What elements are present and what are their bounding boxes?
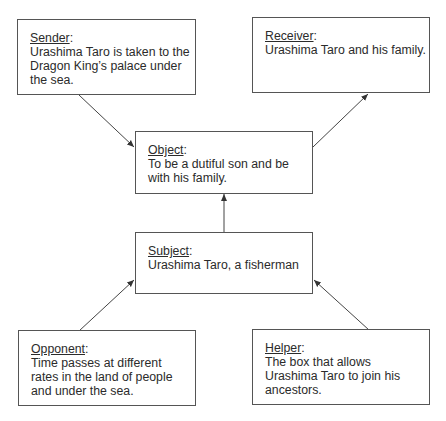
helper-text: The box that allows Urashima Taro to joi… <box>265 355 405 397</box>
arrow-opponent-to-subject <box>79 280 134 331</box>
subject-text: Urashima Taro, a fisherman <box>148 258 312 272</box>
object-label: Object <box>148 143 184 157</box>
opponent-text: Time passes at different rates in the la… <box>31 356 181 398</box>
receiver-box: Receiver: Urashima Taro and his family. <box>252 17 430 93</box>
opponent-label: Opponent <box>31 342 85 356</box>
subject-label: Subject <box>148 244 189 258</box>
helper-box: Helper: The box that allows Urashima Tar… <box>252 329 430 405</box>
arrow-sender-to-object <box>79 95 134 147</box>
object-text: To be a dutiful son and be with his fami… <box>148 157 298 185</box>
arrow-object-to-receiver <box>313 94 368 147</box>
sender-box: Sender: Urashima Taro is taken to the Dr… <box>17 19 196 95</box>
arrow-helper-to-subject <box>314 280 369 330</box>
sender-label: Sender <box>30 31 70 45</box>
object-box: Object: To be a dutiful son and be with … <box>135 131 313 194</box>
receiver-text: Urashima Taro and his family. <box>265 43 429 57</box>
receiver-label: Receiver <box>265 29 314 43</box>
helper-label: Helper <box>265 341 301 355</box>
sender-text: Urashima Taro is taken to the Dragon Kin… <box>30 45 190 87</box>
opponent-box: Opponent: Time passes at different rates… <box>18 330 196 406</box>
subject-box: Subject: Urashima Taro, a fisherman <box>135 232 313 294</box>
